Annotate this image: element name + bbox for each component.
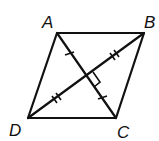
rhombus-diagram: A B C D: [0, 0, 159, 141]
vertex-label-a: A: [41, 13, 53, 32]
vertex-label-c: C: [117, 123, 130, 141]
diagonal-bd: [28, 33, 144, 118]
vertex-label-d: D: [9, 121, 21, 140]
vertex-label-b: B: [144, 13, 155, 32]
